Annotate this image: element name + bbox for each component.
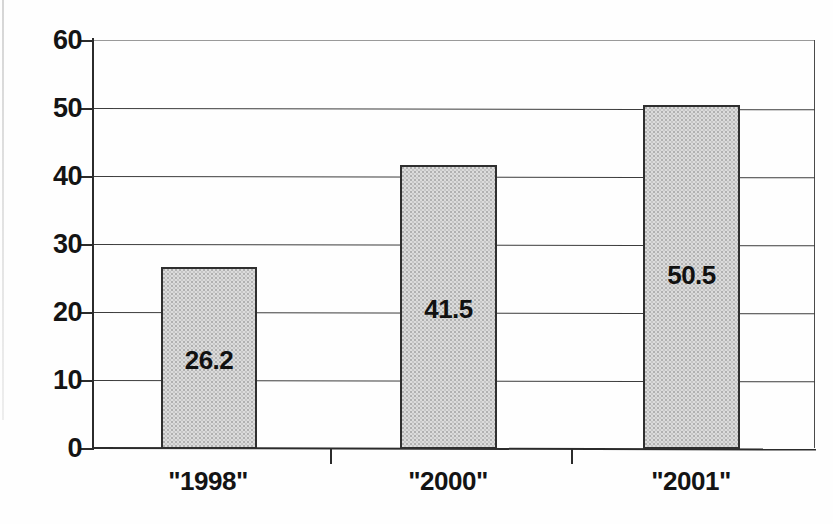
- y-axis-label-20: 20: [12, 299, 82, 326]
- y-tick-20: [80, 312, 94, 314]
- y-axis-label-40: 40: [12, 163, 82, 190]
- y-axis-label-10: 10: [12, 367, 82, 394]
- bar-value-label: 26.2: [163, 347, 255, 373]
- bar-2000[interactable]: 41.5: [400, 165, 497, 449]
- x-axis-label-2001: "2001": [581, 468, 801, 494]
- y-axis-label-0: 0: [12, 435, 82, 462]
- y-tick-30: [80, 244, 94, 246]
- bar-chart: 60 50 40 30 20 10 0 26.2 41.5 50.5 "1998…: [0, 0, 833, 524]
- plot-right-border: [814, 40, 815, 448]
- y-tick-60: [80, 40, 94, 42]
- x-axis-label-2000: "2000": [338, 468, 558, 494]
- x-tick-boundary-2: [571, 449, 573, 464]
- y-tick-10: [80, 380, 94, 382]
- bar-1998[interactable]: 26.2: [161, 267, 257, 449]
- y-axis-label-30: 30: [12, 231, 82, 258]
- y-axis-label-60: 60: [12, 27, 82, 54]
- y-tick-40: [80, 176, 94, 178]
- y-tick-50: [80, 108, 94, 110]
- bar-2001[interactable]: 50.5: [643, 105, 740, 449]
- y-tick-0: [80, 448, 94, 450]
- bar-value-label: 50.5: [645, 262, 738, 288]
- bar-value-label: 41.5: [402, 296, 495, 322]
- x-tick-boundary-1: [330, 449, 332, 464]
- plot-top-border: [93, 40, 815, 41]
- y-axis-label-50: 50: [12, 95, 82, 122]
- x-axis-label-1998: "1998": [98, 468, 318, 494]
- page-edge-artifact: [2, 0, 4, 420]
